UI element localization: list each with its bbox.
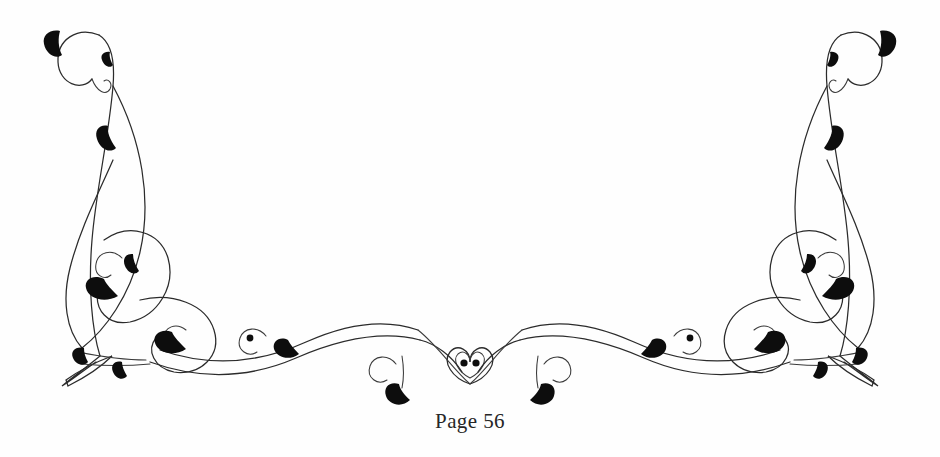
- flourish-right-half: [520, 31, 896, 405]
- center-motif-group: [418, 330, 522, 384]
- page-canvas: Page 56: [0, 0, 940, 457]
- flourish-left-half: [44, 31, 420, 405]
- left-inner-leaf-curl: [96, 252, 122, 277]
- left-bottom-blade: [66, 356, 112, 386]
- right-leaf-connector-b: [530, 383, 555, 404]
- right-lower-swirl: [724, 298, 800, 373]
- center-baseline-right: [478, 340, 520, 372]
- right-leaf-connector-a: [641, 339, 666, 358]
- right-leaf-bottom-tail-b: [813, 362, 828, 379]
- page-caption-row: Page 56: [0, 408, 940, 434]
- left-top-inner-curl: [92, 79, 111, 92]
- right-bottom-blade: [828, 356, 874, 386]
- center-dot-right: [472, 359, 479, 366]
- right-top-inner-curl: [829, 79, 848, 92]
- center-baseline-left: [420, 340, 462, 372]
- right-connector-spiral: [674, 329, 701, 354]
- decorative-flourish-ornament: [0, 0, 940, 410]
- center-teardrop-outline: [447, 348, 493, 384]
- left-connector-spiral-two: [369, 357, 396, 382]
- right-connector-spiral-two: [544, 357, 571, 382]
- center-dot-left: [460, 359, 467, 366]
- right-large-loop-return: [827, 160, 874, 348]
- left-leaf-mid-stem: [96, 126, 116, 151]
- left-leaf-lower-swirl: [154, 331, 186, 354]
- left-leaf-connector-b: [385, 383, 410, 404]
- right-leaf-lower-swirl: [754, 331, 786, 354]
- right-main-stem-path: [841, 32, 882, 85]
- page-number-caption: Page 56: [435, 408, 505, 434]
- left-lower-swirl: [140, 298, 216, 373]
- left-leaf-bottom-tail-b: [112, 362, 127, 379]
- left-connector-tendril: [402, 356, 404, 388]
- right-leaf-bottom-tail-a: [852, 348, 868, 365]
- left-leaf-connector-a: [274, 339, 299, 358]
- left-large-loop-return: [66, 160, 113, 348]
- left-connector-spiral-dot: [247, 335, 254, 342]
- right-leaf-mid-stem: [824, 126, 844, 151]
- right-connector-tendril: [537, 356, 539, 388]
- left-main-stem-path: [58, 32, 99, 85]
- right-connector-spiral-dot: [687, 335, 694, 342]
- right-inner-leaf-curl: [818, 252, 844, 277]
- right-leaf-top-outer: [878, 31, 896, 57]
- left-connector-spiral: [239, 329, 266, 354]
- left-leaf-bottom-tail-a: [72, 348, 88, 365]
- left-leaf-top-outer: [44, 31, 62, 57]
